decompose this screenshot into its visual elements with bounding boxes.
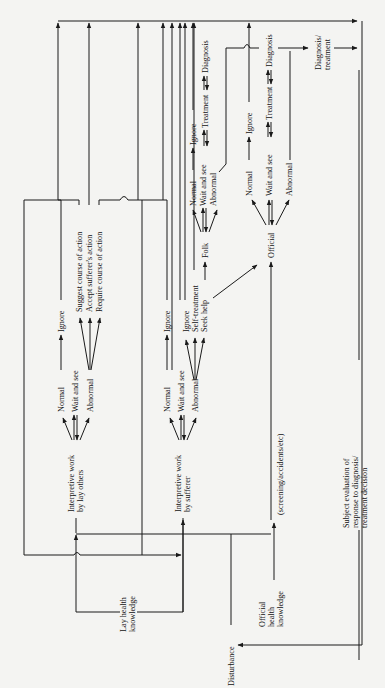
svg-text:response to diagnosis/: response to diagnosis/ <box>351 455 360 528</box>
svg-text:Accept sufferer's action: Accept sufferer's action <box>85 235 94 312</box>
svg-text:Lay health: Lay health <box>119 597 128 632</box>
official-treatment: Treatment <box>265 86 274 120</box>
official-knowledge-node: Official health knowledge <box>258 591 285 627</box>
sufferer-ignore: Ignore <box>163 310 172 332</box>
lay-ignore: Ignore <box>57 310 66 332</box>
svg-text:Seek help: Seek help <box>200 300 209 332</box>
diagnosis-treatment-node: Diagnosis/ treatment <box>314 34 332 70</box>
svg-text:Interpretive work: Interpretive work <box>67 454 76 512</box>
svg-text:Abnormal: Abnormal <box>285 162 294 196</box>
folk-options: Normal Wait and see Abnormal <box>189 164 218 206</box>
svg-text:Abnormal: Abnormal <box>86 378 95 412</box>
official-ignore: Ignore <box>245 112 254 134</box>
right-feedback-line <box>238 21 362 645</box>
svg-text:Subject evaluation of: Subject evaluation of <box>342 458 351 528</box>
sufferer-abnormal-actions: Ignore Self-treatment Seek help <box>182 284 209 332</box>
lay-knowledge-node: Lay health knowledge <box>119 596 137 632</box>
svg-text:Official: Official <box>258 601 267 627</box>
disturbance-node: Disturbance <box>227 646 236 686</box>
interp-lay-label: Interpretive work by lay others <box>67 454 85 512</box>
folk-ignore: Ignore <box>189 123 198 145</box>
lay-knowledge-connector-3 <box>137 535 183 612</box>
svg-text:Diagnosis/: Diagnosis/ <box>314 34 323 70</box>
sufferer-options: Normal Wait and see Abnormal <box>163 370 200 412</box>
official-node: Official <box>267 232 276 258</box>
svg-text:by sufferer: by sufferer <box>183 476 192 512</box>
interp-sufferer-label: Interpretive work by sufferer <box>174 454 192 512</box>
svg-text:Require course of action: Require course of action <box>95 232 104 312</box>
svg-text:Ignore: Ignore <box>182 310 191 332</box>
svg-text:treatment decision: treatment decision <box>360 468 369 528</box>
screening-label: (screening/accidents/etc) <box>276 433 285 515</box>
svg-text:Normal: Normal <box>57 386 66 412</box>
svg-text:Abnormal: Abnormal <box>209 172 218 206</box>
svg-text:treatment: treatment <box>323 38 332 70</box>
folk-diagnosis: Diagnosis <box>201 40 210 73</box>
svg-text:Wait and see: Wait and see <box>199 164 208 206</box>
svg-text:Interpretive work: Interpretive work <box>174 454 183 512</box>
svg-text:Normal: Normal <box>189 180 198 206</box>
subject-evaluation-node: Subject evaluation of response to diagno… <box>342 455 369 528</box>
svg-text:Normal: Normal <box>245 170 254 196</box>
lay-others-options: Normal Wait and see Abnormal <box>57 370 95 412</box>
svg-text:Wait and see: Wait and see <box>265 154 274 196</box>
illness-behaviour-flow-diagram: Interpretive work by lay others Normal W… <box>0 0 385 688</box>
svg-text:Wait and see: Wait and see <box>177 370 186 412</box>
lay-loop <box>24 553 181 556</box>
svg-text:Normal: Normal <box>163 386 172 412</box>
svg-text:health: health <box>267 607 276 627</box>
lay-abnormal-actions: Suggest course of action Accept sufferer… <box>75 232 104 312</box>
svg-text:Wait and see: Wait and see <box>71 370 80 412</box>
official-options: Normal Wait and see Abnormal <box>245 154 294 196</box>
svg-text:by lay others: by lay others <box>76 470 85 512</box>
folk-treatment: Treatment <box>201 94 210 128</box>
svg-text:Self-treatment: Self-treatment <box>191 284 200 332</box>
svg-text:Abnormal: Abnormal <box>191 378 200 412</box>
lay-box-left <box>24 200 56 555</box>
svg-text:Suggest course of action: Suggest course of action <box>75 232 84 312</box>
folk-node: Folk <box>201 242 210 258</box>
svg-text:knowledge: knowledge <box>276 591 285 627</box>
official-diagnosis: Diagnosis <box>265 34 274 67</box>
svg-text:knowledge: knowledge <box>128 596 137 632</box>
